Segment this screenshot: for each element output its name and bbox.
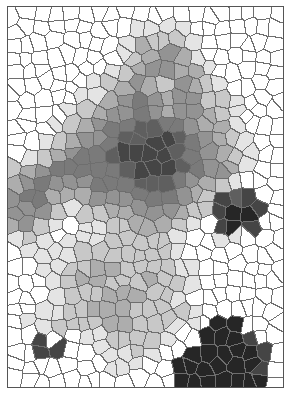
mosaic-frame (7, 6, 284, 388)
voronoi-mosaic-image (8, 7, 283, 387)
